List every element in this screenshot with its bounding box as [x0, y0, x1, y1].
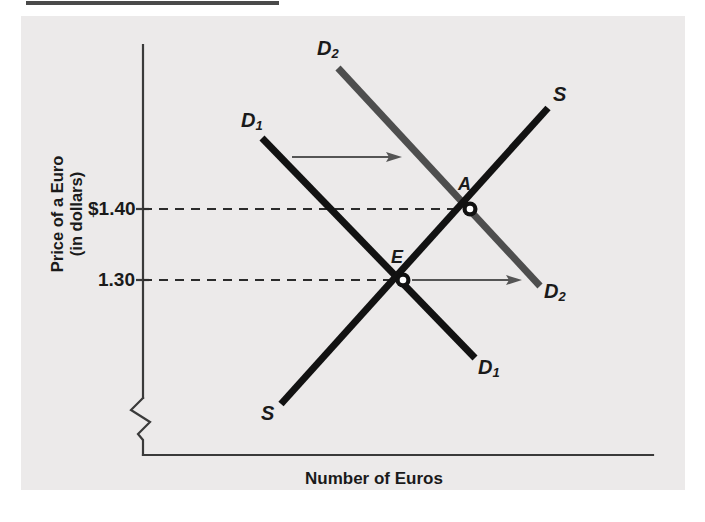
curve-label-d1-bottom: D1: [478, 357, 500, 379]
curve-label-s-bottom: S: [261, 403, 274, 423]
demand-curve-d2: [338, 68, 540, 286]
supply-demand-chart: [0, 0, 705, 522]
curve-label-s-top: S: [553, 84, 566, 104]
curve-label-d1-top: D1: [241, 110, 263, 132]
demand-shift-arrow-upper: [292, 152, 402, 162]
point-label-a: A: [458, 175, 471, 193]
y-axis-break-icon: [131, 398, 150, 455]
demand-curve-d1: [262, 138, 475, 358]
y-tick-label-130: 1.30: [98, 270, 135, 289]
curve-label-d2-bottom: D2: [544, 281, 566, 303]
point-label-e: E: [391, 248, 403, 266]
y-axis-title-line1: Price of a Euro: [48, 156, 66, 272]
y-axis-title-line2: (in dollars): [67, 172, 85, 256]
quantity-shift-arrow-lower: [412, 275, 522, 285]
curve-label-d2-top: D2: [317, 38, 339, 60]
x-axis-title: Number of Euros: [305, 470, 443, 487]
y-tick-label-140: $1.40: [88, 199, 136, 218]
point-marker-a: [463, 202, 478, 217]
point-marker-e: [396, 273, 411, 288]
figure-container: Price of a Euro (in dollars) $1.40 1.30 …: [0, 0, 705, 522]
y-axis-title: Price of a Euro (in dollars): [48, 119, 86, 309]
